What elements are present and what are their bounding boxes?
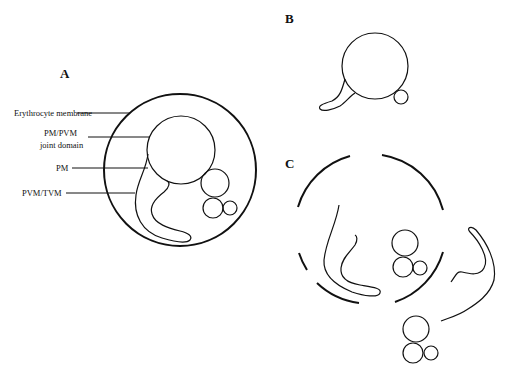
panel-c-label: C [285,156,294,171]
vesicle-b [394,90,408,104]
label-pm: PM [56,163,69,173]
label-erythrocyte-membrane: Erythrocyte membrane [14,108,92,118]
diagram-canvas: A Erythrocyte membrane PM/PVM joint doma… [0,0,509,377]
panel-b-label: B [285,11,294,26]
label-joint-domain: joint domain [39,140,84,150]
vesicle-large [201,169,229,197]
vesicle-small [223,201,237,215]
membrane-arc-left [299,253,307,270]
detached-tvm [441,227,495,321]
detached-vesicle-large [403,316,429,342]
membrane-arc-top-left [298,156,350,207]
vesicle-c-large [392,230,418,256]
panel-a: A Erythrocyte membrane PM/PVM joint doma… [14,66,256,246]
detached-vesicle-medium [403,343,423,363]
label-pvm-tvm: PVM/TVM [22,188,62,198]
tvm-extension [135,154,190,242]
vesicle-medium [203,198,223,218]
membrane-arc-top-right [382,155,443,210]
vesicle-c-medium [393,257,413,277]
erythrocyte-membrane-circle [104,94,256,246]
tvm-extension-b [320,79,356,110]
panel-a-label: A [60,66,70,81]
parasite-body-circle-b [342,33,408,99]
detached-vesicle-small [424,346,438,360]
tvm-fragment-c [324,205,380,296]
label-pm-pvm: PM/PVM [44,128,78,138]
membrane-arc-bottom-left [317,283,359,303]
panel-b: B [285,11,408,110]
panel-c: C [285,155,495,363]
vesicle-c-small [413,261,427,275]
